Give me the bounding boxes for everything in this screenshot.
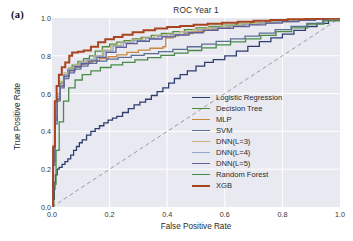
legend-item-label: XGB [216,180,232,191]
y-axis-title: True Positive Rate [13,57,22,177]
legend-swatch-icon [192,185,210,187]
y-tick-3: 0.6 [41,89,51,98]
legend-swatch-icon [192,130,210,131]
legend-item-xgb[interactable]: XGB [192,180,282,191]
chart-title: ROC Year 1 [52,5,340,15]
legend-swatch-icon [192,141,210,142]
legend: Logistic RegressionDecision TreeMLPSVMDN… [192,92,282,191]
x-tick-3: 0.6 [220,210,230,219]
legend-item-svm[interactable]: SVM [192,125,282,136]
x-tick-2: 0.4 [162,210,172,219]
panel-label: (a) [11,9,24,20]
y-tick-2: 0.4 [41,127,51,136]
y-tick-5: 1.0 [41,14,51,23]
y-tick-4: 0.8 [41,51,51,60]
x-tick-0: 0.0 [47,210,57,219]
legend-item-dnn-l-5[interactable]: DNN(L=5) [192,158,282,169]
x-tick-4: 0.8 [277,210,287,219]
legend-item-decision-tree[interactable]: Decision Tree [192,103,282,114]
legend-swatch-icon [192,119,210,120]
legend-item-label: MLP [216,114,232,125]
legend-item-dnn-l-3[interactable]: DNN(L=3) [192,136,282,147]
x-tick-5: 1.0 [335,210,345,219]
y-tick-1: 0.2 [41,165,51,174]
legend-swatch-icon [192,174,210,175]
legend-item-logistic-regression[interactable]: Logistic Regression [192,92,282,103]
legend-swatch-icon [192,97,210,98]
legend-item-label: DNN(L=5) [216,158,250,169]
legend-item-label: DNN(L=4) [216,147,250,158]
x-tick-1: 0.2 [105,210,115,219]
legend-item-label: Logistic Regression [216,92,282,103]
legend-swatch-icon [192,108,210,109]
x-axis-title: False Positive Rate [52,222,340,231]
legend-item-label: Random Forest [216,169,268,180]
legend-swatch-icon [192,163,210,164]
legend-item-label: DNN(L=3) [216,136,250,147]
legend-item-dnn-l-4[interactable]: DNN(L=4) [192,147,282,158]
legend-item-label: Decision Tree [216,103,262,114]
legend-item-random-forest[interactable]: Random Forest [192,169,282,180]
legend-item-mlp[interactable]: MLP [192,114,282,125]
legend-swatch-icon [192,152,210,153]
legend-item-label: SVM [216,125,232,136]
